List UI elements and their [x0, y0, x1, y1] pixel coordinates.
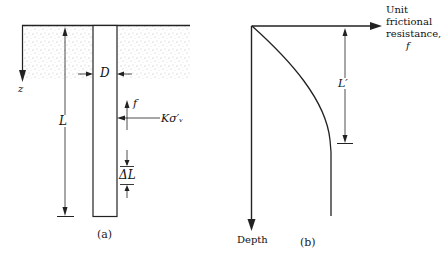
pile [93, 26, 117, 217]
friction-curve [252, 26, 331, 216]
x-axis-label: Unit frictional resistance, f [386, 4, 441, 52]
L-prime-label: L′ [338, 78, 348, 89]
diagram-canvas [0, 0, 448, 259]
depth-label: Depth [237, 235, 268, 245]
lateral-pressure-arrow [117, 116, 160, 121]
friction-arrow [125, 100, 130, 130]
f-label: f [133, 98, 137, 109]
K-sigma-label: Kσ′ᵥ [161, 113, 183, 124]
x-axis-label-line2: frictional [386, 16, 441, 28]
caption-a: (a) [97, 228, 112, 241]
L-label: L [59, 115, 67, 127]
delta-L-label: ΔL [119, 169, 136, 181]
D-label: D [100, 67, 110, 79]
caption-b: (b) [300, 236, 316, 249]
z-label: z [18, 84, 23, 94]
x-axis-label-line4: f [386, 40, 441, 52]
x-axis-label-line1: Unit [386, 4, 441, 16]
graph-axes [248, 22, 383, 231]
x-axis-label-line3: resistance, [386, 28, 441, 40]
